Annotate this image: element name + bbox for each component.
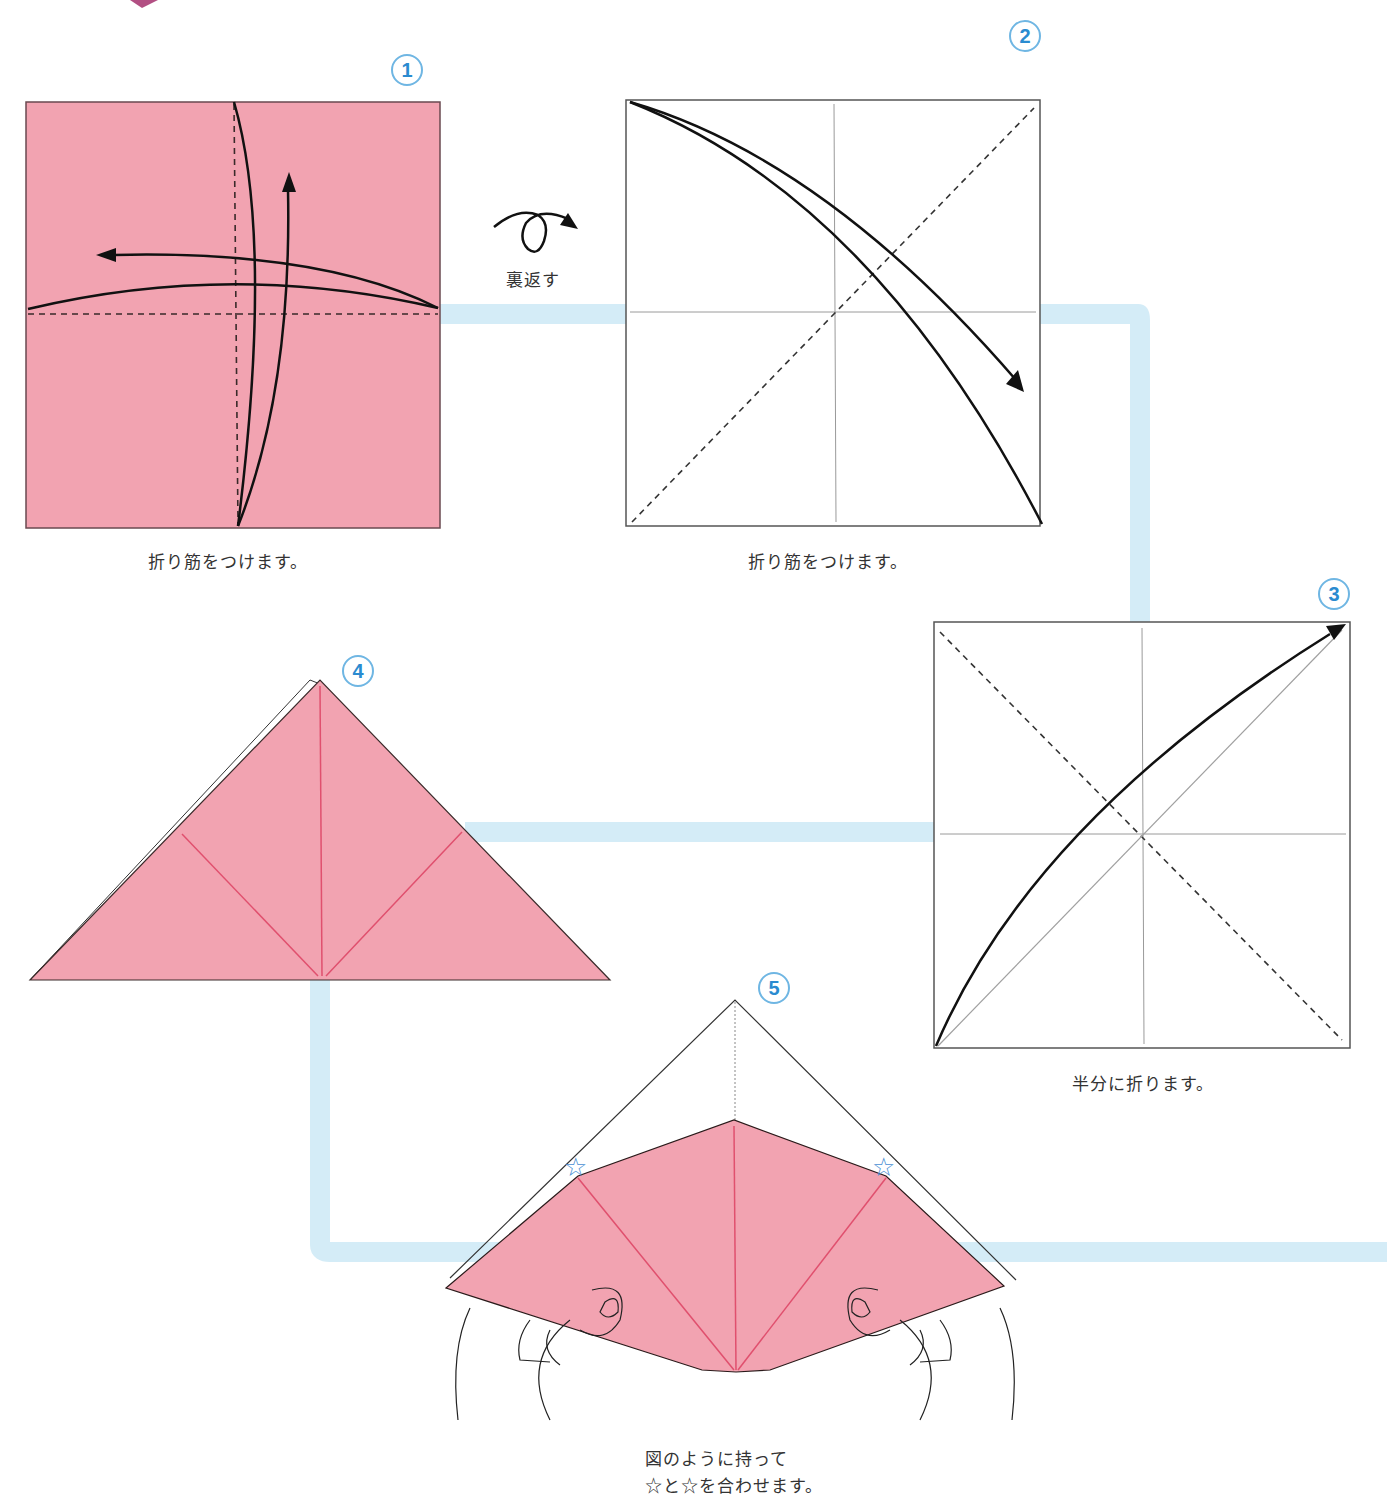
star-marker-right: ☆	[872, 1152, 895, 1182]
step-3-caption: 半分に折ります。	[1072, 1070, 1214, 1095]
step-2-number: 2	[1019, 25, 1030, 48]
step-2-caption: 折り筋をつけます。	[748, 548, 908, 573]
flip-over-arrow-icon	[488, 205, 588, 265]
step-1-caption: 折り筋をつけます。	[148, 548, 308, 573]
turn-over-label: 裏返す	[506, 266, 560, 291]
star-marker-left: ☆	[564, 1152, 587, 1182]
step-1-badge: 1	[391, 54, 423, 86]
step-3-badge: 3	[1318, 578, 1350, 610]
step-5-caption-line-1: 図のように持って	[645, 1445, 788, 1470]
step-3-figure	[932, 620, 1354, 1050]
step-4-figure	[24, 672, 624, 992]
step-2-figure	[624, 98, 1044, 530]
step-1-number: 1	[401, 59, 412, 82]
step-1-figure	[24, 100, 444, 532]
step-5-caption-line-2: ☆と☆を合わせます。	[645, 1472, 823, 1497]
step-2-badge: 2	[1009, 20, 1041, 52]
step-5-figure: ☆ ☆	[430, 990, 1050, 1430]
origami-instruction-diagram: 1 折り筋をつけます。 裏返す 2 折り筋をつけます。 3	[0, 0, 1387, 1503]
step-3-number: 3	[1328, 583, 1339, 606]
decorative-corner-fragment	[128, 0, 168, 12]
